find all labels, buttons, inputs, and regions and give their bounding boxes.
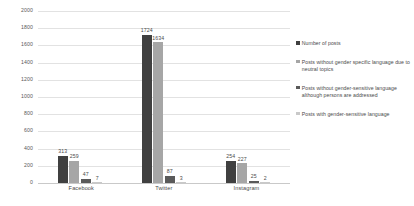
bar-value-label: 7 <box>96 176 99 181</box>
bar-column[interactable]: 1634 <box>153 11 163 183</box>
y-axis-tick-label: 400 <box>24 146 33 151</box>
bar-column[interactable]: 2 <box>260 11 270 183</box>
legend-item-label: Number of posts <box>302 40 341 48</box>
bar-column[interactable]: 47 <box>81 11 91 183</box>
legend-swatch-icon <box>296 86 300 90</box>
legend-swatch-icon <box>296 41 300 45</box>
bar-column[interactable]: 87 <box>165 11 175 183</box>
bar-value-label: 1634 <box>152 36 164 41</box>
chart-legend: Number of postsPosts without gender spec… <box>296 40 412 129</box>
bar-value-label: 227 <box>238 157 247 162</box>
bar-group: 17241634873 <box>142 11 187 183</box>
bar-column[interactable]: 25 <box>249 11 259 183</box>
bar-value-label: 3 <box>180 176 183 181</box>
legend-item-label: Posts without gender-sensitive language … <box>302 85 412 100</box>
axis-baseline <box>38 183 290 184</box>
legend-item[interactable]: Posts without gender specific language d… <box>296 59 412 74</box>
bar-value-label: 1724 <box>141 28 153 33</box>
legend-item[interactable]: Posts with gender-sensitive language <box>296 111 412 119</box>
x-axis-tick-label: Instagram <box>234 186 260 192</box>
bar-groups: 31325947717241634873254227252 <box>38 11 290 183</box>
bar-column[interactable]: 254 <box>226 11 236 183</box>
x-axis: FacebookTwitterInstagram <box>38 186 290 192</box>
legend-item[interactable]: Posts without gender-sensitive language … <box>296 85 412 100</box>
y-axis-tick-label: 1200 <box>21 77 33 82</box>
bar-column[interactable]: 3 <box>176 11 186 183</box>
bar[interactable] <box>249 181 259 183</box>
bar[interactable] <box>69 161 79 183</box>
y-axis-tick-label: 2000 <box>21 8 33 13</box>
y-axis-tick-label: 1400 <box>21 60 33 65</box>
bar[interactable] <box>92 182 102 183</box>
bar[interactable] <box>81 179 91 183</box>
legend-swatch-icon <box>296 112 300 116</box>
y-axis-tick-label: 600 <box>24 129 33 134</box>
x-axis-tick-label: Facebook <box>69 186 94 192</box>
legend-item-label: Posts with gender-sensitive language <box>302 111 390 119</box>
bar[interactable] <box>58 156 68 183</box>
y-axis-tick-label: 0 <box>30 180 33 185</box>
y-axis-tick-label: 800 <box>24 112 33 117</box>
bar[interactable] <box>237 163 247 183</box>
bar-value-label: 254 <box>226 154 235 159</box>
bar-column[interactable]: 7 <box>92 11 102 183</box>
bar-value-label: 2 <box>264 176 267 181</box>
bar-column[interactable]: 227 <box>237 11 247 183</box>
bar-value-label: 87 <box>167 169 173 174</box>
legend-item[interactable]: Number of posts <box>296 40 412 48</box>
y-axis-tick-label: 1000 <box>21 94 33 99</box>
bar-value-label: 25 <box>251 174 257 179</box>
legend-item-label: Posts without gender specific language d… <box>302 59 412 74</box>
bar[interactable] <box>142 35 152 183</box>
legend-swatch-icon <box>296 60 300 64</box>
bar-value-label: 47 <box>83 172 89 177</box>
plot-area: 31325947717241634873254227252 <box>38 11 290 183</box>
bar[interactable] <box>153 42 163 183</box>
bar[interactable] <box>165 176 175 183</box>
bar-chart: 0200400600800100012001400160018002000 31… <box>0 0 414 206</box>
bar-group: 254227252 <box>226 11 271 183</box>
bar[interactable] <box>260 182 270 183</box>
y-axis-tick-label: 200 <box>24 163 33 168</box>
bar[interactable] <box>176 182 186 183</box>
bar-column[interactable]: 259 <box>69 11 79 183</box>
bar-column[interactable]: 313 <box>58 11 68 183</box>
y-axis-tick-label: 1600 <box>21 43 33 48</box>
bar-column[interactable]: 1724 <box>142 11 152 183</box>
y-axis-tick-label: 1800 <box>21 26 33 31</box>
y-axis: 0200400600800100012001400160018002000 <box>0 11 36 183</box>
bar-group: 313259477 <box>58 11 103 183</box>
x-axis-tick-label: Twitter <box>155 186 172 192</box>
bar-value-label: 313 <box>58 149 67 154</box>
bar[interactable] <box>226 161 236 183</box>
bar-value-label: 259 <box>70 154 79 159</box>
